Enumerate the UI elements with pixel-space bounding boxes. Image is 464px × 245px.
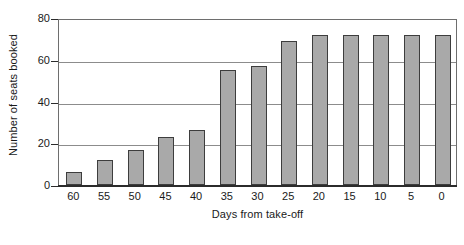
y-tick-label-0: 0	[24, 180, 50, 191]
y-tick-label-80: 80	[24, 13, 50, 24]
x-tick-label-5: 5	[396, 190, 427, 203]
x-tick-label-20: 20	[304, 190, 335, 203]
bar-20	[312, 35, 328, 185]
x-tick-label-10: 10	[365, 190, 396, 203]
x-axis-line	[58, 185, 457, 187]
bar-45	[158, 137, 174, 185]
bar-50	[128, 150, 144, 185]
bar-chart-figure: Number of seats booked 020406080 6055504…	[0, 0, 464, 245]
y-tick-mark-20	[51, 144, 58, 145]
x-tick-label-0: 0	[426, 190, 457, 203]
plot-area	[58, 19, 457, 186]
x-tick-label-45: 45	[150, 190, 181, 203]
bar-15	[343, 35, 359, 185]
y-tick-label-40: 40	[24, 97, 50, 108]
bar-60	[66, 172, 82, 185]
x-tick-label-50: 50	[119, 190, 150, 203]
bar-40	[189, 130, 205, 185]
bar-5	[404, 35, 420, 185]
y-axis-tick-labels: 020406080	[22, 0, 50, 245]
x-tick-label-30: 30	[242, 190, 273, 203]
x-tick-label-60: 60	[58, 190, 89, 203]
bar-0	[435, 35, 451, 185]
bars-layer	[59, 20, 456, 185]
x-tick-label-25: 25	[273, 190, 304, 203]
y-tick-mark-0	[51, 186, 58, 187]
x-axis-tick-labels: 605550454035302520151050	[58, 190, 457, 204]
y-tick-mark-60	[51, 61, 58, 62]
bar-10	[373, 35, 389, 185]
y-tick-mark-40	[51, 103, 58, 104]
x-axis-title: Days from take-off	[58, 208, 457, 220]
y-axis-title: Number of seats booked	[2, 2, 24, 188]
x-tick-label-40: 40	[181, 190, 212, 203]
bar-30	[251, 66, 267, 185]
x-tick-label-35: 35	[211, 190, 242, 203]
x-tick-label-55: 55	[89, 190, 120, 203]
y-tick-label-20: 20	[24, 138, 50, 149]
bar-25	[281, 41, 297, 185]
bar-55	[97, 160, 113, 185]
x-tick-label-15: 15	[334, 190, 365, 203]
bar-35	[220, 70, 236, 185]
y-tick-label-60: 60	[24, 55, 50, 66]
y-axis-tick-marks	[51, 0, 58, 245]
y-tick-mark-80	[51, 19, 58, 20]
